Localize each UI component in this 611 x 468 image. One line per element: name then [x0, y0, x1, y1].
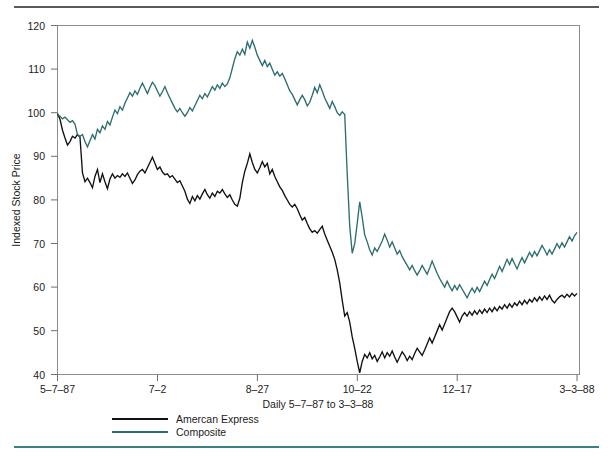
y-tick-label: 120 [27, 20, 45, 32]
y-tick-label: 100 [27, 107, 45, 119]
legend-label-composite: Composite [176, 426, 226, 438]
series-line-composite [58, 40, 578, 297]
x-tick-label: 5–7–87 [40, 383, 75, 395]
y-tick-label: 60 [33, 281, 45, 293]
y-tick-label: 80 [33, 194, 45, 206]
y-tick-label: 70 [33, 238, 45, 250]
series-line-american-express [58, 114, 578, 373]
x-tick-label: 3–3–88 [559, 383, 594, 395]
y-axis-ticks [51, 26, 58, 375]
figure-container: 120 110 100 90 80 70 60 50 40 Indexed St… [0, 0, 611, 468]
x-tick-label: 8–27 [246, 383, 270, 395]
y-axis-title: Indexed Stock Price [10, 153, 22, 247]
x-tick-label: 10–22 [343, 383, 372, 395]
plot-frame [58, 26, 580, 375]
chart-legend: Amercan Express Composite [112, 413, 259, 438]
y-tick-label: 90 [33, 150, 45, 162]
x-axis-tick-labels: 5–7–87 7–2 8–27 10–22 12–17 3–3–88 [40, 383, 595, 395]
y-axis-tick-labels: 120 110 100 90 80 70 60 50 40 [27, 20, 45, 381]
x-tick-label: 7–2 [149, 383, 167, 395]
x-axis-title: Daily 5–7–87 to 3–3–88 [263, 398, 374, 410]
bottom-horizontal-rule [14, 446, 599, 448]
x-tick-label: 12–17 [443, 383, 472, 395]
line-chart: 120 110 100 90 80 70 60 50 40 Indexed St… [0, 0, 611, 468]
y-tick-label: 110 [28, 63, 45, 75]
legend-label-american-express: Amercan Express [176, 413, 259, 425]
y-tick-label: 50 [33, 325, 45, 337]
x-axis-ticks [58, 375, 578, 382]
y-tick-label: 40 [33, 369, 45, 381]
